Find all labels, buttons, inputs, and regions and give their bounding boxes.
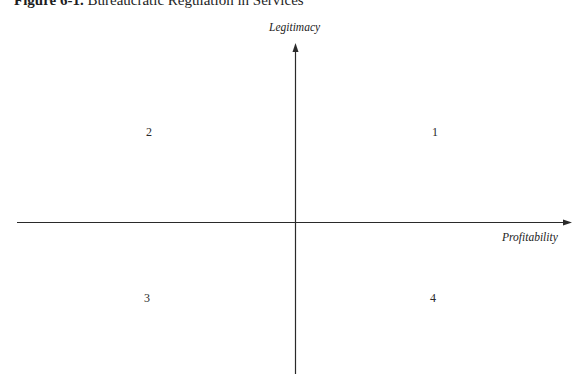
quadrant-4-label: 4	[430, 292, 436, 304]
y-axis-arrow-icon	[293, 43, 299, 52]
quadrant-1-label: 1	[432, 126, 438, 138]
quadrant-2-label: 2	[146, 126, 152, 138]
quadrant-3-label: 3	[144, 292, 150, 304]
y-axis-label: Legitimacy	[269, 21, 320, 34]
x-axis-label: Profitability	[502, 231, 558, 244]
quadrant-axes	[0, 0, 588, 387]
x-axis-arrow-icon	[563, 220, 572, 226]
